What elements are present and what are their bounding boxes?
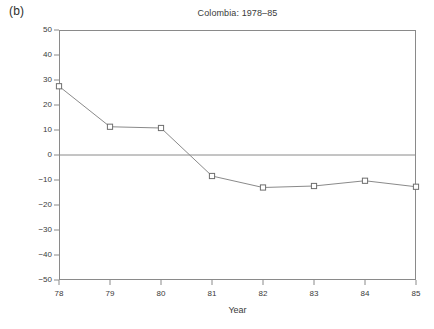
y-tick-label: 40 <box>18 51 52 59</box>
y-tick-label: −10 <box>18 176 52 184</box>
x-tick-label: 79 <box>95 290 125 298</box>
y-tick-label: −30 <box>18 226 52 234</box>
y-tick-label: 10 <box>18 126 52 134</box>
x-tick-marks <box>59 280 416 285</box>
figure-panel: (b) Colombia: 1978–85 50403020100−10−20−… <box>0 0 434 329</box>
x-tick-label: 82 <box>248 290 278 298</box>
plot-area <box>59 30 416 280</box>
x-tick-label: 83 <box>299 290 329 298</box>
x-tick-label: 84 <box>350 290 380 298</box>
x-tick-label: 78 <box>44 290 74 298</box>
x-axis-label: Year <box>59 305 416 315</box>
x-tick-label: 85 <box>401 290 431 298</box>
x-tick-label: 80 <box>146 290 176 298</box>
x-tick-label: 81 <box>197 290 227 298</box>
y-tick-label: −40 <box>18 251 52 259</box>
y-tick-label: −20 <box>18 201 52 209</box>
y-tick-label: 50 <box>18 26 52 34</box>
y-tick-label: 20 <box>18 101 52 109</box>
chart-title: Colombia: 1978–85 <box>59 8 416 18</box>
y-tick-label: 0 <box>18 151 52 159</box>
panel-label: (b) <box>9 4 24 18</box>
y-tick-label: 30 <box>18 76 52 84</box>
y-tick-label: −50 <box>18 276 52 284</box>
